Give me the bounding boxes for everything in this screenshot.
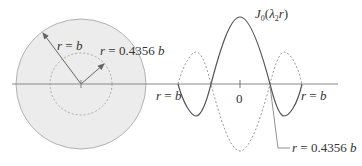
mode-profile-plot: J0(λ2r) r = b r = b 0 r = 0.4356 b (156, 6, 357, 155)
left-end-label: r = b (156, 88, 182, 103)
right-end-label: r = b (301, 88, 327, 103)
inner-radius-label: r = 0.4356 b (100, 43, 165, 58)
outer-radius-label: r = b (57, 38, 83, 53)
bessel-mode-diagram: r = b r = 0.4356 b J0(λ2r) r = b r = b 0… (0, 0, 362, 166)
origin-label: 0 (236, 91, 243, 106)
node-leader-line (270, 86, 278, 148)
node-label: r = 0.4356 b (292, 140, 357, 155)
function-label: J0(λ2r) (255, 6, 288, 23)
